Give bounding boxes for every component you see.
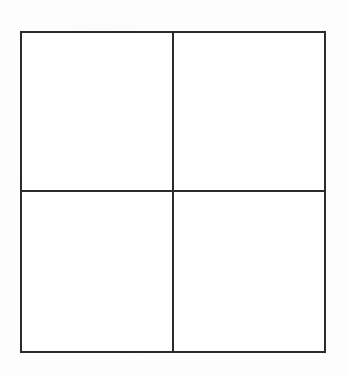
grid-figure bbox=[20, 31, 326, 353]
grid-cell-top-right[interactable] bbox=[174, 33, 324, 190]
grid-cell-top-left[interactable] bbox=[22, 33, 172, 190]
grid-cell-bottom-left[interactable] bbox=[22, 192, 172, 351]
page-canvas bbox=[0, 0, 347, 375]
grid-cell-bottom-right[interactable] bbox=[174, 192, 324, 351]
